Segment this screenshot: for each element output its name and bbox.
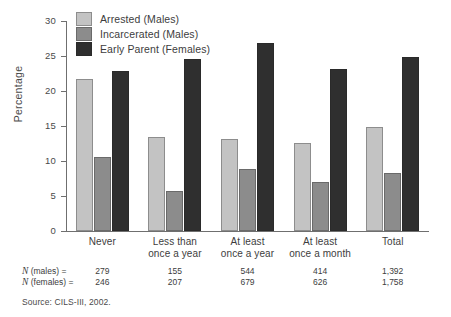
bar: [221, 139, 238, 231]
bar-group: [366, 21, 419, 231]
sample-size-value: 246: [72, 277, 132, 287]
sample-size-value: 1,758: [363, 277, 423, 287]
bar: [112, 71, 129, 231]
y-tick-label: 5: [51, 190, 56, 201]
sample-size-value: 1,392: [363, 266, 423, 276]
legend: Arrested (Males) Incarcerated (Males) Ea…: [76, 11, 210, 56]
sample-size-value: 544: [218, 266, 278, 276]
bar: [94, 157, 111, 231]
sample-size-value: 626: [290, 277, 350, 287]
legend-label: Incarcerated (Males): [100, 28, 198, 40]
legend-label: Early Parent (Females): [100, 43, 210, 55]
bar: [330, 69, 347, 231]
sample-size-value: 679: [218, 277, 278, 287]
bar: [166, 191, 183, 231]
bar: [384, 173, 401, 231]
legend-item-early-parent-females: Early Parent (Females): [76, 41, 210, 56]
bar-group: [221, 21, 274, 231]
sample-size-value: 279: [72, 266, 132, 276]
bar: [76, 79, 93, 231]
bar: [184, 59, 201, 231]
legend-item-incarcerated-males: Incarcerated (Males): [76, 26, 210, 41]
sample-size-row: N (males) =2791555444141,392: [0, 266, 451, 277]
bar: [294, 143, 311, 231]
bar: [366, 127, 383, 231]
y-tick-label: 30: [45, 15, 56, 26]
bar-chart: Percentage 051015202530 Arrested (Males)…: [0, 0, 451, 317]
y-tick-label: 15: [45, 120, 56, 131]
y-tick-label: 0: [51, 225, 56, 236]
y-tick-label: 20: [45, 85, 56, 96]
x-category-label: Total: [343, 236, 443, 248]
sample-size-table: N (males) =2791555444141,392N (females) …: [0, 266, 451, 288]
legend-label: Arrested (Males): [100, 13, 179, 25]
legend-item-arrested-males: Arrested (Males): [76, 11, 210, 26]
legend-swatch-icon: [76, 27, 92, 41]
sample-size-value: 414: [290, 266, 350, 276]
y-axis-label: Percentage: [12, 34, 24, 154]
y-tick-mark: [61, 231, 66, 232]
source-note: Source: CILS-III, 2002.: [22, 297, 111, 307]
bar: [402, 57, 419, 231]
bar-group: [294, 21, 347, 231]
sample-size-row: N (females) =2462076796261,758: [0, 277, 451, 288]
bar: [239, 169, 256, 231]
sample-size-value: 155: [145, 266, 205, 276]
legend-swatch-icon: [76, 12, 92, 26]
legend-swatch-icon: [76, 42, 92, 56]
y-tick-label: 10: [45, 155, 56, 166]
sample-size-row-label: N (males) =: [22, 266, 66, 276]
y-tick-label: 25: [45, 50, 56, 61]
x-category-label-line: once a month: [270, 248, 370, 260]
sample-size-row-label: N (females) =: [22, 277, 73, 287]
bar: [148, 137, 165, 231]
x-category-label-line: Total: [343, 236, 443, 248]
bar: [257, 43, 274, 231]
sample-size-value: 207: [145, 277, 205, 287]
bar: [312, 182, 329, 231]
x-axis-line: [66, 231, 429, 232]
